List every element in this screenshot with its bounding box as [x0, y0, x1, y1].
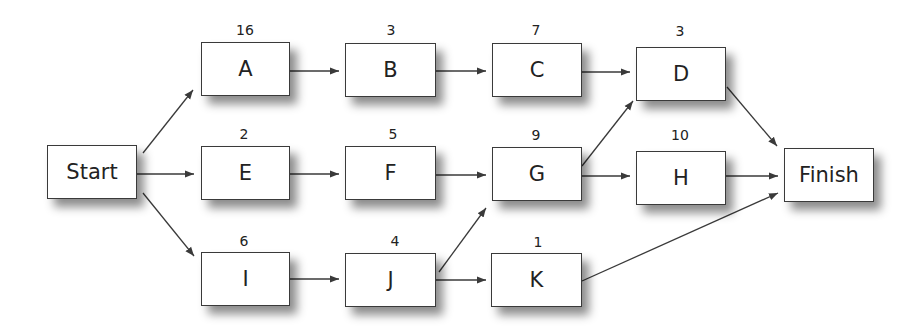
duration-c: 7	[491, 22, 581, 38]
duration-g: 9	[491, 127, 581, 143]
node-j: J	[345, 253, 436, 307]
node-b: B	[345, 43, 436, 97]
network-diagram: Start 16 A 3 B 7 C 3 D 2 E 5 F 9 G 10 H …	[0, 0, 924, 333]
node-d: D	[636, 47, 726, 101]
node-a: A	[201, 42, 290, 96]
node-label: E	[239, 161, 252, 185]
node-label: A	[238, 57, 252, 81]
node-label: F	[384, 161, 396, 185]
node-label: Start	[66, 160, 117, 184]
duration-b: 3	[346, 22, 436, 38]
node-k: K	[491, 253, 582, 307]
duration-k: 1	[493, 234, 583, 250]
edge-start-i	[143, 193, 194, 256]
duration-j: 4	[350, 233, 440, 249]
edge-k-finish	[582, 193, 778, 281]
node-label: C	[530, 58, 545, 82]
node-label: B	[383, 58, 397, 82]
node-label: J	[387, 268, 393, 292]
duration-d: 3	[635, 23, 725, 39]
node-finish: Finish	[784, 148, 874, 202]
node-label: K	[530, 268, 544, 292]
node-label: H	[673, 166, 689, 190]
node-start: Start	[47, 145, 137, 199]
node-label: D	[673, 62, 689, 86]
duration-f: 5	[348, 126, 438, 142]
edge-g-d	[582, 101, 633, 166]
node-g: G	[492, 147, 582, 201]
duration-a: 16	[200, 22, 290, 38]
node-label: I	[242, 267, 248, 291]
node-e: E	[201, 146, 290, 200]
edge-d-finish	[727, 87, 777, 146]
node-c: C	[492, 43, 582, 97]
node-f: F	[345, 146, 436, 200]
node-label: Finish	[799, 163, 859, 187]
duration-h: 10	[635, 127, 725, 143]
node-label: G	[529, 162, 545, 186]
edge-start-a	[143, 90, 193, 153]
edge-j-g	[439, 208, 486, 272]
node-i: I	[201, 252, 290, 306]
duration-i: 6	[199, 233, 289, 249]
node-h: H	[636, 151, 726, 205]
duration-e: 2	[199, 126, 289, 142]
